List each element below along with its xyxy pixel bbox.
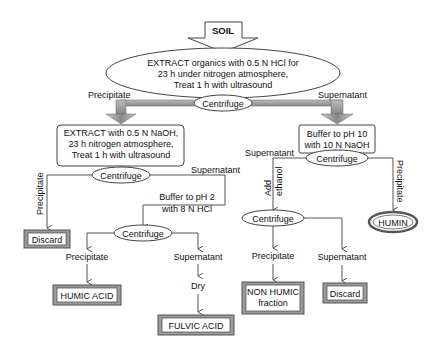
centrifuge-label: Centrifuge bbox=[316, 154, 358, 164]
discard-left-product: Discard bbox=[24, 230, 70, 248]
supernatant-label: Supernatant bbox=[317, 252, 367, 262]
centrifuge-label: Centrifuge bbox=[122, 229, 164, 239]
left-block-arrow-icon bbox=[106, 114, 136, 124]
non-humic-label-2: fraction bbox=[258, 298, 288, 308]
fulvic-acid-product: FULVIC ACID bbox=[158, 315, 234, 335]
supernatant-label: Supernatant bbox=[245, 148, 295, 158]
precipitate-label: Precipitate bbox=[252, 251, 295, 261]
humin-label: HUMIN bbox=[378, 218, 408, 228]
naoh-line-3: Treat 1 h with ultrasound bbox=[72, 150, 171, 160]
dry-label: Dry bbox=[191, 281, 205, 291]
precipitate-vertical-label: Precipitate bbox=[35, 172, 45, 215]
buffer-ph10-line-1: Buffer to pH 10 bbox=[307, 129, 367, 139]
discard-label: Discard bbox=[32, 235, 63, 245]
centrifuge-node-2-group: Centrifuge Supernatant Precipitate Buffe… bbox=[35, 165, 241, 228]
humic-acid-product: HUMIC ACID bbox=[53, 285, 121, 305]
precipitate-label: Precipitate bbox=[66, 252, 109, 262]
add-ethanol-label-2: ethanol bbox=[274, 166, 284, 196]
naoh-extraction-step: EXTRACT with 0.5 N NaOH, 23 h nitrogen a… bbox=[57, 125, 184, 166]
buffer-ph10-line-2: with 10 N NaOH bbox=[303, 140, 369, 150]
buffer-ph2-line-2: with 8 N HCl bbox=[161, 204, 212, 214]
supernatant-label: Supernatant bbox=[318, 90, 368, 100]
centrifuge-node-5-group: Centrifuge Precipitate Supernatant bbox=[242, 210, 367, 281]
buffer-ph2-line-1: Buffer to pH 2 bbox=[159, 192, 214, 202]
hcl-step-line-1: EXTRACT organics with 0.5 N HCl for bbox=[147, 58, 298, 68]
centrifuge-label: Centrifuge bbox=[252, 214, 294, 224]
supernatant-label: Supernatant bbox=[191, 165, 241, 175]
buffer-ph10-step: Buffer to pH 10 with 10 N NaOH bbox=[299, 125, 375, 153]
humin-product: HUMIN bbox=[369, 212, 417, 232]
naoh-line-1: EXTRACT with 0.5 N NaOH, bbox=[64, 128, 178, 138]
centrifuge-label: Centrifuge bbox=[100, 171, 142, 181]
supernatant-label: Supernatant bbox=[173, 252, 223, 262]
centrifuge-node-4-group: Centrifuge Supernatant Add ethanol Preci… bbox=[245, 148, 405, 210]
fulvic-acid-label: FULVIC ACID bbox=[169, 321, 224, 331]
add-ethanol-label-1: Add bbox=[263, 180, 273, 196]
hcl-step-line-2: 23 h under nitrogen atmosphere, bbox=[158, 69, 289, 79]
centrifuge-label: Centrifuge bbox=[202, 99, 244, 109]
soil-label: SOIL bbox=[212, 25, 234, 36]
hcl-extraction-step: EXTRACT organics with 0.5 N HCl for 23 h… bbox=[106, 48, 340, 98]
humic-acid-label: HUMIC ACID bbox=[60, 291, 114, 301]
discard-label: Discard bbox=[330, 289, 361, 299]
discard-right-product: Discard bbox=[323, 283, 367, 303]
non-humic-fraction-product: NON HUMIC fraction bbox=[242, 282, 304, 314]
precipitate-label: Precipitate bbox=[88, 90, 131, 100]
precipitate-vertical-label: Precipitate bbox=[395, 160, 405, 203]
hcl-step-line-3: Treat 1 h with ultrasound bbox=[174, 80, 273, 90]
non-humic-label-1: NON HUMIC bbox=[247, 287, 299, 297]
first-centrifuge-branch: Centrifuge Precipitate Supernatant bbox=[88, 90, 368, 124]
fractionation-diagram: SOIL EXTRACT organics with 0.5 N HCl for… bbox=[0, 0, 439, 355]
naoh-line-2: 23 h nitrogen atmosphere, bbox=[68, 139, 173, 149]
right-block-arrow-icon bbox=[321, 114, 353, 124]
